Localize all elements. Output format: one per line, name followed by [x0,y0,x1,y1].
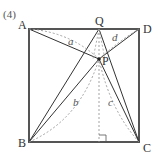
arc-label-c: c [108,96,113,108]
label-d: D [143,22,152,36]
segment-cq [99,29,139,142]
problem-number: (4) [3,8,16,21]
label-a: A [18,18,27,32]
segment-ap [29,29,99,59]
geometry-figure: (4) A D B C Q P a d b c [0,0,158,156]
segment-bq [29,29,99,142]
point-p-dot [97,57,101,61]
label-b: B [18,136,26,150]
label-c: C [143,141,151,155]
label-q: Q [95,14,104,28]
arc-label-a: a [68,35,74,47]
segment-cp [99,59,139,142]
right-angle-mark [99,135,106,142]
segment-bp [29,59,99,142]
arc-label-b: b [73,96,79,108]
label-p: P [102,54,109,68]
square-abcd [29,29,139,142]
arc-label-d: d [112,31,118,43]
